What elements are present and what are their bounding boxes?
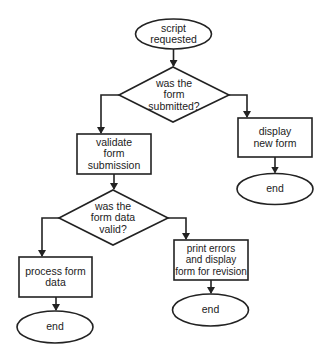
print-errors-label: print errors and display form for revisi…	[174, 240, 248, 280]
edge-valid-no	[168, 218, 186, 239]
label-line: end	[46, 321, 64, 333]
label-line: end	[202, 304, 220, 316]
process-label: process form data	[19, 257, 92, 297]
decision-valid-label: was the form data valid?	[78, 199, 148, 237]
label-line: new form	[253, 138, 296, 150]
label-line: submitted?	[148, 101, 199, 113]
end-left-label: end	[17, 312, 93, 342]
label-line: and display	[186, 254, 237, 266]
label-line: requested	[150, 34, 197, 46]
edge-submitted-yes	[101, 95, 119, 133]
label-line: data	[45, 277, 65, 289]
label-line: form for revision	[175, 266, 247, 278]
end-mid-label: end	[172, 295, 249, 325]
validate-label: validate form submission	[77, 134, 151, 174]
edge-valid-yes	[42, 218, 59, 256]
start-label: script requested	[135, 19, 212, 49]
label-line: end	[266, 183, 284, 195]
label-line: display	[259, 126, 292, 138]
edge-submitted-no	[229, 95, 247, 117]
end-right-label: end	[237, 174, 313, 204]
decision-submitted-label: was the form submitted?	[139, 76, 209, 114]
label-line: submission	[88, 160, 141, 172]
label-line: print errors	[187, 243, 235, 255]
label-line: valid?	[99, 224, 126, 236]
display-new-form-label: display new form	[238, 118, 312, 157]
